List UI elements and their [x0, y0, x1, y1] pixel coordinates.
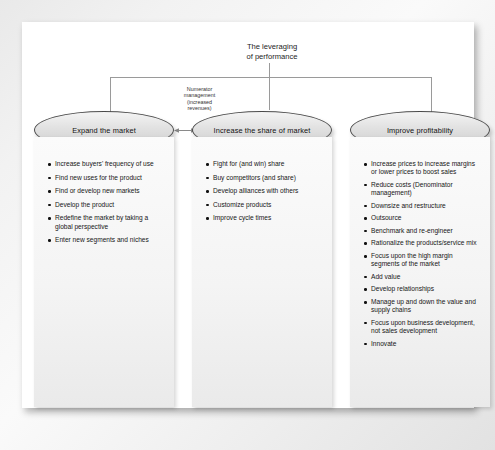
diagram-page: The leveraging of performance Numerator … [22, 22, 474, 408]
bullet-list: Fight for (and win) shareBuy competitors… [192, 137, 332, 223]
list-item: Improve cycle times [206, 214, 323, 222]
list-item: Reduce costs (Denominator management) [364, 181, 481, 197]
column-improve-profitability: Increase prices to increase margins or l… [350, 137, 490, 407]
list-item: Add value [364, 273, 481, 281]
connector-bracket-horizontal [110, 77, 432, 78]
list-item: Redefine the market by taking a global p… [48, 214, 165, 230]
column-expand-the-market: Increase buyers' frequency of useFind ne… [34, 137, 174, 407]
list-item: Focus upon business development, not sal… [364, 319, 481, 335]
list-item: Innovate [364, 340, 481, 348]
connector-drop-expand [110, 77, 111, 113]
list-item: Develop the product [48, 201, 165, 209]
list-item: Fight for (and win) share [206, 160, 323, 168]
list-item: Develop relationships [364, 285, 481, 293]
list-item: Benchmark and re-engineer [364, 227, 481, 235]
connector-stem-title [269, 63, 270, 77]
numerator-management-label: Numerator management (increased revenues… [162, 86, 237, 112]
list-item: Downsize and restructure [364, 202, 481, 210]
list-item: Outsource [364, 214, 481, 222]
column-increase-the-share-of-market: Fight for (and win) shareBuy competitors… [192, 137, 332, 407]
bullet-list: Increase prices to increase margins or l… [350, 137, 490, 348]
list-item: Manage up and down the value and supply … [364, 298, 481, 314]
image-frame: The leveraging of performance Numerator … [0, 0, 495, 450]
node-label: Increase the share of market [214, 126, 311, 135]
list-item: Find new uses for the product [48, 174, 165, 182]
bullet-list: Increase buyers' frequency of useFind ne… [34, 137, 174, 244]
list-item: Increase buyers' frequency of use [48, 160, 165, 168]
list-item: Increase prices to increase margins or l… [364, 160, 481, 176]
list-item: Customize products [206, 201, 323, 209]
list-item: Buy competitors (and share) [206, 174, 323, 182]
diagram-title: The leveraging of performance [197, 42, 347, 61]
list-item: Rationalize the products/service mix [364, 239, 481, 247]
list-item: Focus upon the high margin segments of t… [364, 252, 481, 268]
list-item: Develop alliances with others [206, 187, 323, 195]
node-label: Expand the market [72, 126, 136, 135]
list-item: Find or develop new markets [48, 187, 165, 195]
connector-drop-share [269, 77, 270, 110]
node-label: Improve profitability [387, 126, 453, 135]
list-item: Enter new segments and niches [48, 236, 165, 244]
connector-drop-profit [431, 77, 432, 113]
